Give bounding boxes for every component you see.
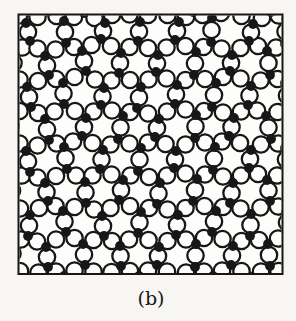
node-dot	[152, 260, 162, 270]
node-dot	[96, 34, 106, 44]
node-dot	[100, 18, 110, 28]
bridging-circle	[177, 165, 193, 181]
bridging-circle	[232, 135, 248, 151]
bridging-circle	[66, 69, 82, 85]
node-dot	[224, 131, 234, 141]
node-dot	[170, 99, 180, 109]
node-dot	[266, 134, 276, 144]
page: (b)	[0, 0, 296, 321]
bridging-circle	[187, 247, 203, 263]
bridging-circle	[57, 24, 73, 40]
node-dot	[58, 78, 68, 88]
node-dot	[61, 38, 71, 48]
node-dot	[155, 178, 165, 188]
node-dot	[261, 111, 271, 121]
node-dot	[133, 36, 143, 46]
node-dot	[118, 111, 128, 121]
node-dot	[262, 175, 272, 185]
node-dot	[136, 143, 146, 153]
bridging-circle	[103, 166, 119, 182]
node-dot	[207, 227, 217, 237]
bridging-circle	[242, 217, 258, 233]
node-dot	[152, 199, 162, 209]
node-dot	[265, 70, 275, 80]
node-dot	[59, 142, 69, 152]
node-dot	[80, 177, 90, 187]
node-dot	[133, 166, 143, 176]
node-dot	[174, 17, 184, 27]
node-dot	[25, 210, 35, 220]
node-dot	[132, 103, 142, 113]
node-dot	[154, 114, 164, 124]
bridging-circle	[140, 232, 156, 248]
bridging-circle	[122, 198, 138, 214]
figure-caption: (b)	[19, 286, 283, 310]
node-dot	[171, 230, 181, 240]
bridging-circle	[39, 121, 55, 137]
node-dot	[206, 37, 216, 47]
node-dot	[188, 196, 198, 206]
node-dot	[244, 36, 254, 46]
node-dot	[246, 209, 256, 219]
node-dot	[154, 242, 164, 252]
node-dot	[114, 195, 124, 205]
node-dot	[263, 239, 273, 249]
node-dot	[99, 231, 109, 241]
node-dot	[97, 211, 107, 221]
node-dot	[227, 50, 237, 60]
node-dot	[208, 165, 218, 175]
bridging-circle	[131, 89, 147, 105]
node-dot	[77, 46, 87, 56]
node-dot	[133, 228, 143, 238]
node-dot	[225, 198, 235, 208]
node-dot	[189, 70, 199, 80]
bridging-circle	[260, 55, 276, 71]
bridging-circle	[260, 182, 276, 198]
node-dot	[246, 145, 256, 155]
bridging-circle	[261, 247, 277, 263]
node-dot	[98, 145, 108, 155]
bridging-circle	[206, 87, 222, 103]
bridging-circle	[232, 70, 248, 86]
node-dot	[44, 135, 54, 145]
node-dot	[243, 100, 253, 110]
node-dot	[81, 66, 91, 76]
bridging-circle	[196, 198, 212, 214]
bridging-circle	[121, 135, 137, 151]
bridging-circle	[187, 55, 203, 71]
node-dot	[40, 178, 50, 188]
node-dot	[43, 196, 53, 206]
node-dot	[228, 241, 238, 251]
node-dot	[114, 68, 124, 78]
bridging-circle	[20, 153, 36, 169]
node-dot	[116, 48, 126, 58]
bridging-circle	[203, 22, 219, 38]
node-dot	[23, 231, 33, 241]
node-dot	[115, 241, 125, 251]
bridging-circle	[187, 118, 203, 134]
node-dot	[96, 100, 106, 110]
node-dot	[113, 134, 123, 144]
node-dot	[116, 261, 126, 271]
node-dot	[265, 196, 275, 206]
figure-canvas	[0, 0, 296, 321]
bridging-circle	[67, 103, 83, 119]
node-dot	[21, 146, 31, 156]
node-dot	[169, 163, 179, 173]
node-dot	[78, 239, 88, 249]
bridging-circle	[57, 150, 73, 166]
bridging-circle	[206, 213, 222, 229]
node-dot	[171, 146, 181, 156]
node-dot	[265, 261, 275, 271]
node-dot	[226, 260, 236, 270]
node-dot	[192, 174, 202, 184]
node-dot	[58, 206, 68, 216]
node-dot	[59, 16, 69, 26]
bridging-circle	[260, 119, 276, 135]
node-dot	[25, 167, 35, 177]
node-dot	[173, 210, 183, 220]
node-dot	[81, 113, 91, 123]
node-dot	[170, 35, 180, 45]
node-dot	[136, 207, 146, 217]
bridging-circle	[48, 168, 64, 184]
